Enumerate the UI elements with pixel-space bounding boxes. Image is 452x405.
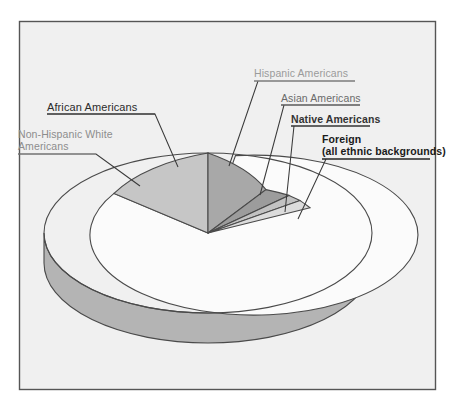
chart-canvas: · · · · (0, 0, 452, 405)
label-non-hispanic-white-line1: Non-Hispanic White (18, 128, 128, 140)
label-african-americans: African Americans (47, 101, 137, 114)
pie-chart-figure (0, 0, 452, 405)
label-non-hispanic-white: Non-Hispanic White Americans (18, 128, 128, 153)
label-hispanic-americans: Hispanic Americans (254, 67, 348, 79)
label-asian-americans: Asian Americans (281, 92, 361, 104)
label-native-americans: Native Americans (291, 113, 380, 125)
label-foreign-line1: Foreign (322, 133, 446, 145)
label-foreign-line2: (all ethnic backgrounds) (322, 145, 446, 157)
label-non-hispanic-white-line2: Americans (18, 140, 128, 152)
label-foreign: Foreign (all ethnic backgrounds) (322, 133, 446, 158)
